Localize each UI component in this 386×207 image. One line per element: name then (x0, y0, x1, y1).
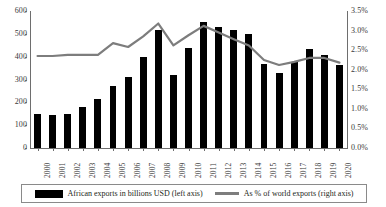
x-tick-mark (309, 149, 310, 151)
y-axis-right-line (347, 11, 348, 149)
legend-label-bars: African exports in billions USD (left ax… (68, 189, 203, 198)
y-tick-mark-left (25, 125, 27, 126)
x-tick-mark (83, 149, 84, 151)
x-axis-labels: 2000200120022003200420052006200720082009… (30, 150, 347, 180)
x-tick-label: 2013 (240, 150, 248, 178)
x-tick-label: 2012 (225, 150, 233, 178)
x-tick-label: 2020 (345, 150, 353, 178)
x-tick-label: 2007 (149, 150, 157, 178)
x-tick-mark (113, 149, 114, 151)
line-series (30, 11, 347, 148)
x-tick-mark (158, 149, 159, 151)
x-tick-label: 2008 (164, 150, 172, 178)
x-tick-mark (279, 149, 280, 151)
x-tick-label: 2003 (89, 150, 97, 178)
y-tick-label-right: 1.0% (351, 105, 368, 113)
x-tick-mark (204, 149, 205, 151)
x-tick-mark (68, 149, 69, 151)
y-tick-mark-left (25, 57, 27, 58)
x-tick-label: 2017 (300, 150, 308, 178)
x-tick-label: 2005 (119, 150, 127, 178)
x-tick-mark (98, 149, 99, 151)
x-tick-label: 2009 (179, 150, 187, 178)
x-tick-mark (189, 149, 190, 151)
y-tick-label-right: 1.5% (351, 85, 368, 93)
x-tick-mark (264, 149, 265, 151)
x-tick-label: 2010 (195, 150, 203, 178)
x-tick-label: 2011 (210, 150, 218, 178)
y-tick-mark-left (25, 102, 27, 103)
y-tick-label-right: 3.0% (351, 27, 368, 35)
y-tick-label-right: 2.0% (351, 66, 368, 74)
x-tick-label: 2014 (255, 150, 263, 178)
x-tick-label: 2004 (104, 150, 112, 178)
x-tick-label: 2002 (74, 150, 82, 178)
line-swatch-icon (215, 192, 239, 195)
x-tick-label: 2016 (285, 150, 293, 178)
legend-label-line: As % of world exports (right axis) (244, 189, 354, 198)
x-tick-mark (173, 149, 174, 151)
chart-legend: African exports in billions USD (left ax… (21, 184, 367, 203)
x-tick-mark (38, 149, 39, 151)
x-tick-mark (249, 149, 250, 151)
plot-area (30, 11, 347, 148)
x-tick-mark (339, 149, 340, 151)
y-tick-label-right: 0.5% (351, 124, 368, 132)
x-tick-mark (294, 149, 295, 151)
x-tick-mark (143, 149, 144, 151)
x-tick-mark (53, 149, 54, 151)
y-tick-label-right: 2.5% (351, 46, 368, 54)
x-tick-mark (324, 149, 325, 151)
chart-figure: 0100200300400500600 0.0%0.5%1.0%1.5%2.0%… (0, 0, 386, 207)
y-tick-mark-left (25, 11, 27, 12)
y-tick-label-right: 0.0% (351, 144, 368, 152)
y-tick-mark-left (25, 80, 27, 81)
y-axis-left-labels: 0100200300400500600 (0, 0, 27, 207)
x-tick-label: 2001 (59, 150, 67, 178)
x-tick-label: 2000 (44, 150, 52, 178)
y-axis-right-labels: 0.0%0.5%1.0%1.5%2.0%2.5%3.0%3.5% (351, 0, 386, 207)
x-tick-mark (128, 149, 129, 151)
x-tick-label: 2019 (330, 150, 338, 178)
bar-swatch-icon (35, 190, 63, 198)
legend-entry-line: As % of world exports (right axis) (215, 189, 354, 198)
x-tick-label: 2015 (270, 150, 278, 178)
x-tick-label: 2018 (315, 150, 323, 178)
x-tick-mark (234, 149, 235, 151)
y-tick-mark-left (25, 148, 27, 149)
legend-entry-bars: African exports in billions USD (left ax… (35, 189, 203, 198)
y-tick-mark-left (25, 34, 27, 35)
x-tick-mark (219, 149, 220, 151)
x-tick-label: 2006 (134, 150, 142, 178)
y-tick-label-right: 3.5% (351, 7, 368, 15)
